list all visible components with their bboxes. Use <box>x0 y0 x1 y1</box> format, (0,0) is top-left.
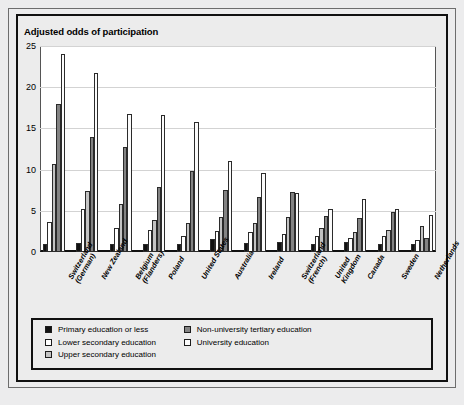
legend-item: University education <box>184 338 312 347</box>
legend-item: Upper secondary education <box>45 350 156 359</box>
legend-column-right: Non-university tertiary educationUnivers… <box>184 325 312 359</box>
bar-group <box>210 46 232 252</box>
bar-group <box>378 46 400 252</box>
bar <box>295 193 299 252</box>
bar-group <box>76 46 98 252</box>
bar <box>261 173 265 252</box>
legend-item-label: University education <box>197 338 269 347</box>
legend-item-label: Primary education or less <box>58 325 148 334</box>
bar-group <box>43 46 65 252</box>
legend-swatch-icon <box>184 339 191 346</box>
chart-legend: Primary education or lessLower secondary… <box>31 318 433 370</box>
y-axis-tick-label: 15 <box>26 123 36 133</box>
legend-swatch-icon <box>45 351 52 358</box>
x-axis-labels: Switzerland(German)New ZealandBelgium(Fl… <box>40 254 436 316</box>
bar-group <box>110 46 132 252</box>
y-axis-tick-label: 10 <box>26 165 36 175</box>
chart-title: Adjusted odds of participation <box>24 26 158 37</box>
legend-swatch-icon <box>184 326 191 333</box>
y-axis-tick-label: 0 <box>31 247 36 257</box>
bar-group <box>143 46 165 252</box>
bar <box>94 73 98 252</box>
bar-group <box>277 46 299 252</box>
legend-item-label: Non-university tertiary education <box>197 325 312 334</box>
bar <box>429 215 433 252</box>
bar <box>395 209 399 252</box>
y-axis-tick-label: 20 <box>26 82 36 92</box>
bar <box>127 114 131 252</box>
bar <box>362 199 366 252</box>
legend-item: Lower secondary education <box>45 338 156 347</box>
legend-item: Primary education or less <box>45 325 156 334</box>
bar-group <box>311 46 333 252</box>
bar <box>161 115 165 252</box>
legend-item-label: Upper secondary education <box>58 350 156 359</box>
y-axis-tick-label: 5 <box>31 206 36 216</box>
legend-item-label: Lower secondary education <box>58 338 156 347</box>
plot-wrapper: 0510152025 <box>40 46 436 252</box>
bar-group <box>244 46 266 252</box>
bar <box>194 122 198 252</box>
legend-column-left: Primary education or lessLower secondary… <box>45 325 156 359</box>
legend-swatch-icon <box>45 326 52 333</box>
legend-swatch-icon <box>45 339 52 346</box>
bar-group <box>177 46 199 252</box>
bar-group <box>344 46 366 252</box>
bar <box>61 54 65 252</box>
bars-layer <box>40 46 436 252</box>
legend-item: Non-university tertiary education <box>184 325 312 334</box>
figure-container: Adjusted odds of participation 051015202… <box>0 0 464 405</box>
bar <box>328 209 332 252</box>
bar-group <box>411 46 433 252</box>
y-axis-tick-label: 25 <box>26 41 36 51</box>
